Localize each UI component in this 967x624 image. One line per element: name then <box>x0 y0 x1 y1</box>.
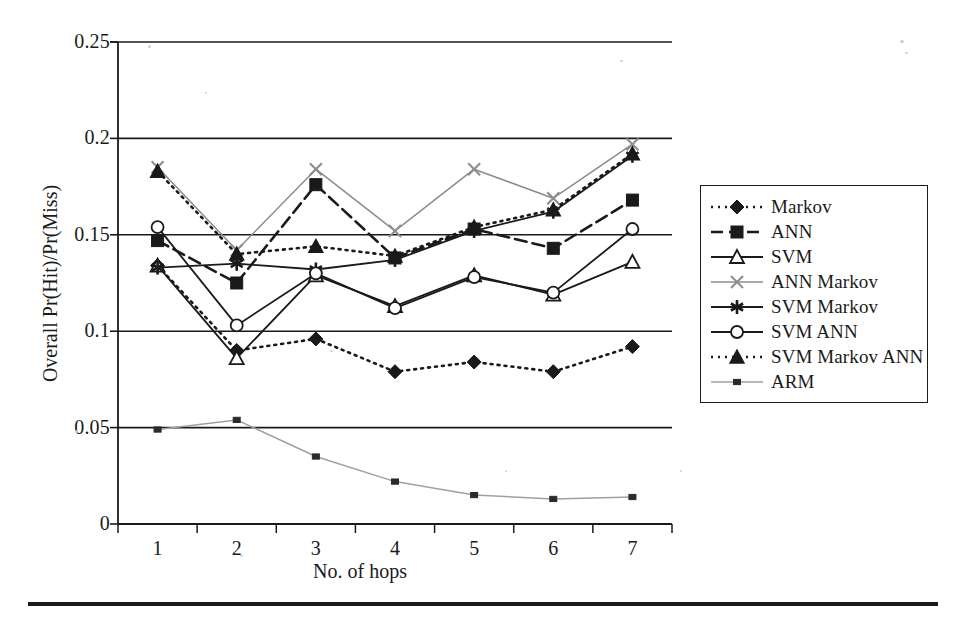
legend-item-svm-markov-ann[interactable]: SVM Markov ANN <box>709 344 921 369</box>
legend-item-ann-markov[interactable]: ANN Markov <box>709 269 921 294</box>
x-tick-label: 7 <box>612 538 652 558</box>
chart-legend: MarkovANNSVMANN MarkovSVM MarkovSVM ANNS… <box>700 185 928 403</box>
x-tick-label: 4 <box>375 538 415 558</box>
asterisk-icon <box>709 296 765 318</box>
x-tick-label: 1 <box>138 538 178 558</box>
x-tick-label: 6 <box>533 538 573 558</box>
x-tick-label: 5 <box>454 538 494 558</box>
scan-artifact <box>75 430 78 433</box>
scan-artifact <box>900 40 904 43</box>
legend-item-label: ANN Markov <box>765 272 878 291</box>
legend-item-svm[interactable]: SVM <box>709 244 921 269</box>
legend-item-label: ANN <box>765 222 812 241</box>
scan-artifact <box>205 92 207 94</box>
x-axis-title: No. of hops <box>230 560 490 583</box>
legend-item-svm-markov[interactable]: SVM Markov <box>709 294 921 319</box>
x-tick-label: 3 <box>296 538 336 558</box>
legend-item-svm-ann[interactable]: SVM ANN <box>709 319 921 344</box>
bottom-horizontal-rule <box>28 602 938 606</box>
x-tick-label: 2 <box>217 538 257 558</box>
scan-artifact <box>620 60 623 62</box>
triangle-open-icon <box>709 246 765 268</box>
figure-chart: 00.050.10.150.20.25 1234567 Overall Pr(H… <box>0 0 967 624</box>
plot-area: 00.050.10.150.20.25 1234567 Overall Pr(H… <box>0 0 700 600</box>
square-small-icon <box>709 371 765 393</box>
y-axis-title: Overall Pr(Hit)/Pr(Miss) <box>39 119 62 449</box>
scan-artifact <box>330 350 333 352</box>
legend-item-ann[interactable]: ANN <box>709 219 921 244</box>
scan-artifact <box>240 555 243 557</box>
legend-item-label: SVM Markov <box>765 297 878 316</box>
legend-item-label: ARM <box>765 372 815 391</box>
legend-item-label: SVM <box>765 247 812 266</box>
legend-item-label: SVM ANN <box>765 322 858 341</box>
scan-artifact <box>505 470 507 472</box>
triangle-filled-icon <box>709 346 765 368</box>
legend-item-markov[interactable]: Markov <box>709 194 921 219</box>
scan-artifact <box>680 470 682 472</box>
legend-item-label: SVM Markov ANN <box>765 347 923 366</box>
x-axis-tick-labels: 1234567 <box>0 0 700 600</box>
scan-artifact <box>148 45 151 48</box>
diamond-filled-icon <box>709 196 765 218</box>
scan-artifact <box>905 52 908 54</box>
square-filled-icon <box>709 221 765 243</box>
circle-open-icon <box>709 321 765 343</box>
legend-item-label: Markov <box>765 197 832 216</box>
x-cross-icon <box>709 271 765 293</box>
legend-item-arm[interactable]: ARM <box>709 369 921 394</box>
